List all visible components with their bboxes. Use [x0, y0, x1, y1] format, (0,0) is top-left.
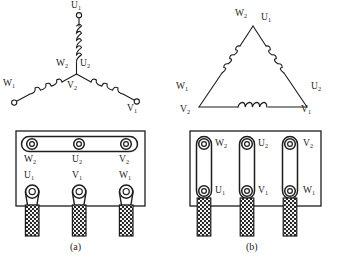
- star-label-U2-node: U2: [80, 59, 90, 69]
- star-block-label-V1: V1: [72, 171, 82, 181]
- delta-block-label-W1: W1: [303, 186, 315, 196]
- delta-block-label-V2: V2: [303, 139, 313, 149]
- delta-schematic: [199, 26, 307, 107]
- diagram-canvas: [0, 0, 348, 262]
- delta-block-label-U1: U1: [215, 186, 225, 196]
- delta-block-label-W2: W2: [215, 139, 227, 149]
- star-terminal-block: [16, 131, 145, 236]
- delta-label-U1-apex: U1: [261, 13, 271, 23]
- star-label-U1-terminal: U1: [71, 1, 81, 11]
- star-block-label-W1: W1: [119, 171, 131, 181]
- caption-panel-b: (b): [246, 241, 258, 252]
- star-schematic: [12, 13, 140, 106]
- star-block-label-U1: U1: [24, 171, 34, 181]
- caption-panel-a: (a): [70, 241, 81, 252]
- star-block-label-W2: W2: [24, 155, 36, 165]
- delta-label-U2-vertex: U2: [311, 82, 321, 92]
- delta-block-label-V1: V1: [258, 186, 268, 196]
- delta-label-V2-vertex: V2: [180, 105, 190, 115]
- delta-terminal-block: [190, 131, 321, 236]
- star-label-V1-terminal: V1: [127, 104, 137, 114]
- star-block-label-V2: V2: [119, 155, 129, 165]
- star-label-W2-node: W2: [56, 59, 68, 69]
- star-label-V2-node: V2: [67, 81, 77, 91]
- delta-label-V1-vertex: V1: [301, 105, 311, 115]
- delta-label-W2-apex: W2: [235, 9, 247, 19]
- vertical-shorting-bars[interactable]: [197, 137, 298, 199]
- delta-block-label-U2: U2: [258, 139, 268, 149]
- star-block-label-U2: U2: [72, 155, 82, 165]
- star-label-W1-terminal: W1: [3, 79, 15, 89]
- delta-label-W1-vertex: W1: [176, 82, 188, 92]
- horizontal-shorting-bar[interactable]: [22, 137, 138, 152]
- connection-diagram-figure: U1 W2 U2 V2 W1 V1 W2 U2 V2 U1 V1 W1 W2 U…: [0, 0, 348, 262]
